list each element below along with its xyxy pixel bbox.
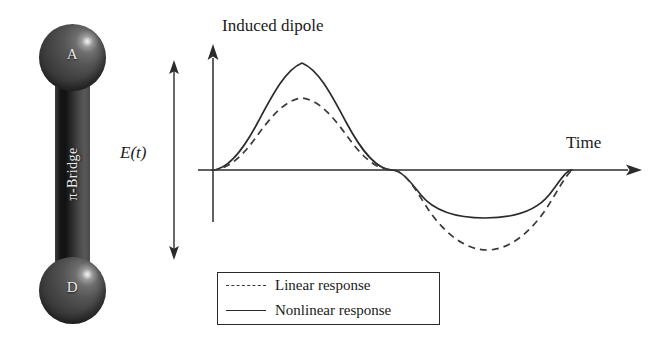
induced-dipole-plot: Induced dipole Time Linear response xyxy=(0,0,651,347)
x-axis xyxy=(198,164,642,175)
figure-root: π-Bridge A D E(t) Induced dipole Time xyxy=(0,0,651,347)
plot-legend: Linear response Nonlinear response xyxy=(217,272,440,325)
curve-linear-response xyxy=(212,98,572,250)
arrow-up-icon xyxy=(208,44,219,60)
arrow-right-icon xyxy=(626,164,642,175)
y-axis xyxy=(208,44,219,222)
curve-nonlinear-response xyxy=(212,63,572,218)
legend-label-linear: Linear response xyxy=(275,278,370,293)
legend-swatch-dashed xyxy=(226,285,266,286)
legend-item-nonlinear: Nonlinear response xyxy=(218,298,439,323)
legend-item-linear: Linear response xyxy=(218,273,439,298)
legend-swatch-solid xyxy=(226,310,266,311)
legend-label-nonlinear: Nonlinear response xyxy=(275,303,391,318)
